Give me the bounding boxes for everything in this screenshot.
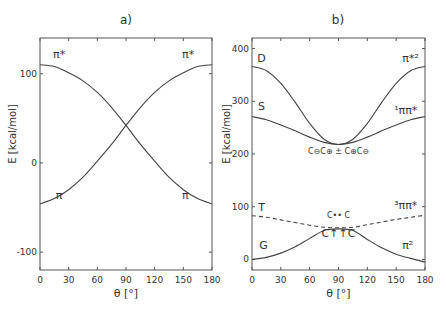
panel-a: a)0306090120150180-1000100θ [°]E [kcal/m…	[7, 13, 221, 300]
annotation: S	[258, 100, 265, 113]
annotation: π	[56, 189, 63, 202]
x-tick-label: 120	[146, 275, 163, 285]
y-axis-label: E [kcal/mol]	[221, 104, 232, 164]
x-tick-label: 120	[359, 275, 376, 285]
annotation: π	[182, 189, 189, 202]
y-tick-label: 0	[31, 158, 37, 168]
y-tick-label: 200	[232, 149, 249, 159]
annotation: ¹ππ*	[394, 104, 418, 117]
y-tick-label: 0	[243, 254, 249, 264]
x-tick-label: 0	[37, 275, 43, 285]
panel-title: a)	[120, 13, 132, 27]
annotation: π*	[182, 48, 195, 61]
x-tick-label: 180	[203, 275, 220, 285]
x-tick-label: 150	[175, 275, 192, 285]
annotation: D	[257, 52, 265, 65]
chart-figure: a)0306090120150180-1000100θ [°]E [kcal/m…	[0, 0, 446, 311]
annotation: π*²	[402, 52, 419, 65]
y-tick-label: 400	[232, 44, 249, 54]
x-axis-label: θ [°]	[326, 287, 350, 300]
series-line	[40, 65, 212, 204]
annotation: π*	[53, 48, 66, 61]
annotation: G	[259, 239, 268, 252]
x-tick-label: 60	[304, 275, 316, 285]
x-tick-label: 90	[120, 275, 132, 285]
x-tick-label: 60	[92, 275, 104, 285]
annotation: C↑↑C	[322, 227, 356, 240]
panel-b: b)03060901201501800100200300400θ [°]E [k…	[221, 13, 434, 300]
series-line	[252, 117, 425, 145]
annotation: C•• C	[327, 211, 351, 220]
x-tick-label: 150	[388, 275, 405, 285]
plot-frame	[40, 38, 212, 270]
annotation: T	[257, 201, 265, 214]
annotation: π²	[402, 239, 413, 252]
x-axis-label: θ [°]	[114, 287, 138, 300]
x-tick-label: 30	[275, 275, 287, 285]
annotation: C⊖C⊕ ± C⊕C⊖	[308, 147, 369, 156]
x-tick-label: 30	[63, 275, 75, 285]
x-tick-label: 0	[249, 275, 255, 285]
y-axis-label: E [kcal/mol]	[7, 104, 18, 164]
y-tick-label: -100	[17, 247, 38, 257]
panel-title: b)	[332, 13, 344, 27]
y-tick-label: 100	[232, 202, 249, 212]
y-tick-label: 100	[20, 69, 37, 79]
x-tick-label: 90	[333, 275, 345, 285]
x-tick-label: 180	[416, 275, 433, 285]
y-tick-label: 300	[232, 96, 249, 106]
annotation: ³ππ*	[394, 199, 418, 212]
series-line	[40, 65, 212, 204]
